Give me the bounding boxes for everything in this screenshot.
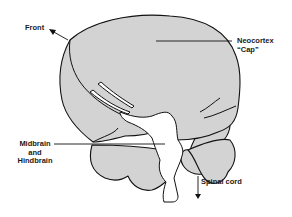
neocortex-label-line2: “Cap” <box>237 46 274 55</box>
spinal-cord-arrow-icon <box>195 194 201 199</box>
midbrain-hindbrain-label: Midbrain and Hindbrain <box>15 140 55 166</box>
brain-diagram <box>0 0 292 217</box>
midbrain-label-line3: Hindbrain <box>15 157 55 166</box>
spinal-cord-label: Spinal cord <box>201 178 242 187</box>
neocortex-label: Neocortex “Cap” <box>237 37 274 54</box>
front-label: Front <box>25 24 44 33</box>
front-arrow-icon <box>49 29 56 35</box>
